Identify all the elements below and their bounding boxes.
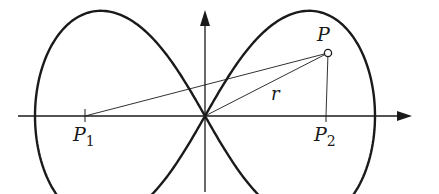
label-r: r (271, 83, 281, 104)
point-p-marker (324, 49, 331, 56)
lemniscate-diagram: P r P1 P2 (0, 0, 439, 194)
segment-p2-to-p (326, 53, 328, 116)
x-axis-arrow-icon (397, 111, 412, 121)
label-p1: P1 (72, 123, 95, 149)
label-p2: P2 (313, 123, 336, 149)
y-axis-arrow-icon (200, 10, 210, 26)
segment-p1-to-p (85, 53, 328, 116)
label-p: P (316, 23, 331, 45)
